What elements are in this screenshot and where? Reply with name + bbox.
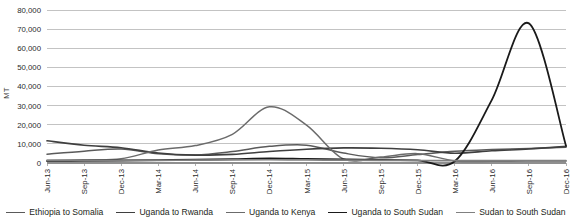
x-tick-label: Sep-13 bbox=[80, 169, 89, 194]
x-tick-label: Mar-16 bbox=[451, 169, 460, 194]
series-line bbox=[47, 160, 566, 161]
legend-item[interactable]: Sudan to South Sudan bbox=[456, 208, 566, 217]
legend-line-swatch bbox=[6, 212, 25, 213]
x-tick-label: Mar-14 bbox=[154, 168, 163, 193]
legend-label: Uganda to Rwanda bbox=[139, 208, 213, 217]
x-tick-label: Jun-13 bbox=[43, 169, 52, 193]
x-tick-label: Mar-15 bbox=[303, 168, 312, 193]
x-tick-label: Dec-15 bbox=[414, 168, 423, 194]
y-tick-label: 50,000 bbox=[17, 63, 42, 72]
legend-label: Uganda to Kenya bbox=[249, 208, 315, 217]
legend-label: Uganda to South Sudan bbox=[351, 208, 443, 217]
y-tick-label: 0 bbox=[37, 159, 42, 168]
legend-item[interactable]: Ethiopia to Somalia bbox=[6, 208, 103, 217]
chart-plot-svg: MT 80,00070,00060,00050,00040,00030,0002… bbox=[0, 0, 572, 203]
x-tick-label: Sep-16 bbox=[525, 169, 534, 194]
line-chart-container: MT 80,00070,00060,00050,00040,00030,0002… bbox=[0, 0, 572, 221]
x-tick-label: Dec-16 bbox=[562, 169, 571, 194]
legend-label: Sudan to South Sudan bbox=[479, 208, 566, 217]
chart-legend: Ethiopia to SomaliaUganda to RwandaUgand… bbox=[0, 203, 572, 221]
series-line bbox=[47, 107, 566, 162]
x-tick-label: Jun-14 bbox=[191, 168, 200, 193]
y-tick-label: 70,000 bbox=[17, 25, 42, 34]
legend-label: Ethiopia to Somalia bbox=[29, 208, 103, 217]
y-axis-tick-labels: 80,00070,00060,00050,00040,00030,00020,0… bbox=[17, 6, 42, 168]
y-tick-label: 10,000 bbox=[17, 140, 42, 149]
x-tick-label: Jun-16 bbox=[488, 169, 497, 193]
y-tick-label: 80,000 bbox=[17, 6, 42, 15]
series-line bbox=[47, 141, 566, 155]
y-tick-label: 60,000 bbox=[17, 44, 42, 53]
legend-line-swatch bbox=[456, 212, 475, 213]
x-tick-label: Sep-14 bbox=[228, 168, 237, 194]
y-axis-title: MT bbox=[2, 87, 11, 98]
x-tick-label: Dec-14 bbox=[265, 168, 274, 194]
gridlines bbox=[47, 10, 566, 163]
y-axis-title-group: MT bbox=[2, 87, 11, 98]
y-tick-label: 20,000 bbox=[17, 121, 42, 130]
x-tick-label: Sep-15 bbox=[377, 168, 386, 194]
legend-item[interactable]: Uganda to South Sudan bbox=[328, 208, 443, 217]
x-tick-label: Jun-15 bbox=[340, 168, 349, 193]
legend-line-swatch bbox=[226, 212, 245, 213]
y-tick-label: 30,000 bbox=[17, 102, 42, 111]
x-tick-label: Dec-13 bbox=[117, 169, 126, 194]
legend-item[interactable]: Uganda to Kenya bbox=[226, 208, 315, 217]
legend-line-swatch bbox=[328, 212, 347, 213]
legend-line-swatch bbox=[116, 212, 135, 213]
legend-item[interactable]: Uganda to Rwanda bbox=[116, 208, 213, 217]
x-axis-tick-labels: Jun-13Sep-13Dec-13Mar-14Jun-14Sep-14Dec-… bbox=[43, 168, 571, 194]
y-tick-label: 40,000 bbox=[17, 82, 42, 91]
